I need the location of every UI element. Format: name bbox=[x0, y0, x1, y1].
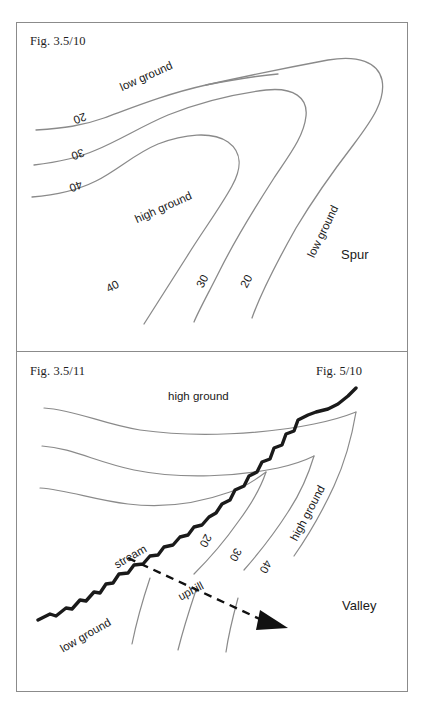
contour-path-20-left bbox=[40, 472, 266, 506]
high-ground-label-top: high ground bbox=[168, 390, 229, 402]
contour-nose-20 bbox=[206, 74, 278, 85]
valley-terrain-label: Valley bbox=[342, 598, 376, 613]
fig-label-bottom-right: Fig. 5/10 bbox=[316, 364, 362, 379]
spur-panel: Fig. 3.5/10 low ground high ground low g… bbox=[16, 22, 408, 351]
contour-stub-left bbox=[132, 578, 150, 644]
fig-label-bottom-left: Fig. 3.5/11 bbox=[30, 364, 85, 379]
spur-terrain-label: Spur bbox=[341, 247, 368, 262]
diagram-page: Fig. 3.5/10 low ground high ground low g… bbox=[0, 0, 425, 704]
fig-label-top-left: Fig. 3.5/10 bbox=[30, 34, 86, 49]
contour-path-40-outer bbox=[32, 135, 239, 324]
valley-panel: Fig. 3.5/11 Fig. 5/10 high ground high g… bbox=[16, 352, 408, 692]
uphill-arrow-head bbox=[256, 610, 288, 630]
contour-path-40-left bbox=[44, 408, 356, 434]
